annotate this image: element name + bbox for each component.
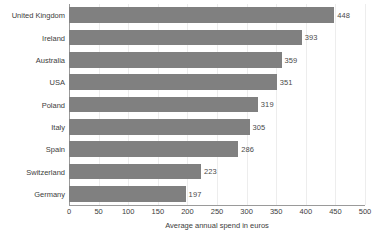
- x-tick-label: 500: [359, 207, 372, 216]
- category-label: Australia: [0, 55, 65, 64]
- category-label: Switzerland: [0, 167, 65, 176]
- category-label: Poland: [0, 100, 65, 109]
- bar-row: 305: [69, 119, 365, 135]
- gridline: [365, 4, 366, 205]
- bar: [69, 141, 238, 157]
- x-tick-label: 400: [300, 207, 313, 216]
- bar-value-label: 351: [280, 78, 293, 87]
- bar-value-label: 223: [204, 167, 217, 176]
- x-axis-line: [69, 205, 365, 206]
- bar-row: 286: [69, 141, 365, 157]
- category-label: Italy: [0, 122, 65, 131]
- x-axis-title: Average annual spend in euros: [69, 221, 365, 230]
- bar-row: 319: [69, 97, 365, 113]
- x-tick-label: 250: [211, 207, 224, 216]
- x-tick-label: 300: [240, 207, 253, 216]
- x-tick-label: 0: [67, 207, 71, 216]
- category-label: Spain: [0, 145, 65, 154]
- bar-value-label: 448: [337, 11, 350, 20]
- bar: [69, 74, 277, 90]
- bar-value-label: 359: [285, 55, 298, 64]
- bar-row: 393: [69, 30, 365, 46]
- bar: [69, 7, 334, 23]
- bar: [69, 30, 302, 46]
- x-tick-label: 350: [270, 207, 283, 216]
- category-label: Germany: [0, 189, 65, 198]
- bar: [69, 186, 186, 202]
- bar-value-label: 305: [253, 122, 266, 131]
- bar-row: 448: [69, 7, 365, 23]
- x-tick-label: 450: [329, 207, 342, 216]
- plot-area: 448393359351319305286223197: [69, 4, 365, 205]
- x-tick-label: 200: [181, 207, 194, 216]
- category-label: USA: [0, 78, 65, 87]
- y-axis-category-labels: United KingdomIrelandAustraliaUSAPolandI…: [0, 4, 65, 205]
- bar-value-label: 286: [241, 145, 254, 154]
- x-tick-label: 50: [94, 207, 102, 216]
- bar-value-label: 319: [261, 100, 274, 109]
- category-label: Ireland: [0, 33, 65, 42]
- bar-row: 197: [69, 186, 365, 202]
- bar-row: 351: [69, 74, 365, 90]
- bar-value-label: 197: [189, 189, 202, 198]
- bar: [69, 52, 282, 68]
- bar-value-label: 393: [305, 33, 318, 42]
- bar-row: 223: [69, 164, 365, 180]
- x-tick-label: 100: [122, 207, 135, 216]
- bar: [69, 164, 201, 180]
- bar-row: 359: [69, 52, 365, 68]
- x-axis-tick-labels: 050100150200250300350400450500: [69, 207, 365, 221]
- category-label: United Kingdom: [0, 11, 65, 20]
- bar: [69, 119, 250, 135]
- bar-chart: United KingdomIrelandAustraliaUSAPolandI…: [0, 0, 381, 241]
- x-tick-label: 150: [152, 207, 165, 216]
- bar: [69, 97, 258, 113]
